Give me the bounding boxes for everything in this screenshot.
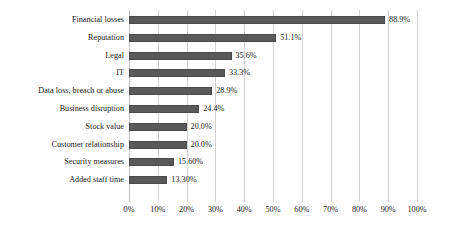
bar-value-label: 51.1% — [280, 31, 301, 45]
bar-value-label: 24.4% — [203, 102, 224, 116]
bar-row: Stock value20.0% — [0, 120, 449, 134]
x-axis-tick-labels: 0%10%20%30%40%50%60%70%80%90%100% — [0, 203, 449, 219]
bar-row: Financial losses88.9% — [0, 13, 449, 27]
bar — [129, 105, 199, 113]
bar-value-label: 15.60% — [178, 155, 203, 169]
bar-value-label: 28.9% — [216, 84, 237, 98]
bar — [129, 158, 174, 166]
bar-value-label: 88.9% — [389, 13, 410, 27]
bar-chart: Financial losses88.9%Reputation51.1%Lega… — [0, 0, 449, 238]
category-label: Security measures — [0, 155, 124, 169]
bar-row: Added staff time13.30% — [0, 173, 449, 187]
bar-row: Data loss, breach or abuse28.9% — [0, 84, 449, 98]
bar-value-label: 20.0% — [191, 138, 212, 152]
bar-row: Legal35.6% — [0, 49, 449, 63]
bar-row: Customer relationship20.0% — [0, 138, 449, 152]
bar — [129, 52, 232, 60]
bar — [129, 123, 187, 131]
bar — [129, 87, 212, 95]
bar-value-label: 35.6% — [236, 49, 257, 63]
category-label: Legal — [0, 49, 124, 63]
bar-value-label: 33.3% — [229, 66, 250, 80]
x-tick-label: 100% — [397, 203, 437, 217]
bar-value-label: 13.30% — [171, 173, 196, 187]
bar — [129, 16, 385, 24]
bar — [129, 176, 167, 184]
bar-row: IT33.3% — [0, 66, 449, 80]
category-label: Added staff time — [0, 173, 124, 187]
bar — [129, 141, 187, 149]
bar — [129, 69, 225, 77]
bar — [129, 34, 276, 42]
category-label: Data loss, breach or abuse — [0, 84, 124, 98]
category-label: Financial losses — [0, 13, 124, 27]
bar-row: Reputation51.1% — [0, 31, 449, 45]
category-label: IT — [0, 66, 124, 80]
category-label: Customer relationship — [0, 138, 124, 152]
bar-value-label: 20.0% — [191, 120, 212, 134]
category-label: Business disruption — [0, 102, 124, 116]
category-label: Reputation — [0, 31, 124, 45]
bar-row: Business disruption24.4% — [0, 102, 449, 116]
bar-row: Security measures15.60% — [0, 155, 449, 169]
category-label: Stock value — [0, 120, 124, 134]
